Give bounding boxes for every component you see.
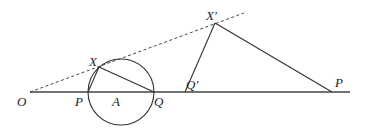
label-Xprime: X′: [205, 8, 217, 23]
label-P: P: [74, 94, 83, 109]
segment-XprimeP: [215, 23, 332, 92]
geometry-diagram: O P A Q X Q′ X′ P: [0, 0, 368, 135]
label-P-right: P: [334, 75, 343, 90]
label-O: O: [17, 94, 27, 109]
label-Q: Q: [154, 94, 164, 109]
label-Qprime: Q′: [186, 77, 198, 92]
label-A: A: [111, 94, 120, 109]
segment-XP: [88, 67, 99, 92]
dashed-ray-OX: [30, 13, 244, 92]
label-X: X: [88, 54, 98, 69]
